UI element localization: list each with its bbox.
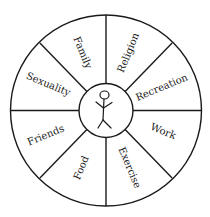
segment-label-recreation: Recreation — [134, 71, 190, 103]
segment-label-food: Food — [71, 153, 91, 181]
segment-label-friends: Friends — [26, 123, 66, 148]
wellness-wheel-diagram: Family Religion Recreation Work Exercise… — [0, 0, 210, 217]
segment-label-family: Family — [71, 35, 94, 71]
stick-figure-icon — [96, 91, 112, 128]
segment-label-exercise: Exercise — [117, 145, 144, 189]
segment-label-sexuality: Sexuality — [25, 70, 73, 98]
segment-label-work: Work — [149, 121, 179, 142]
segment-label-religion: Religion — [115, 31, 141, 74]
